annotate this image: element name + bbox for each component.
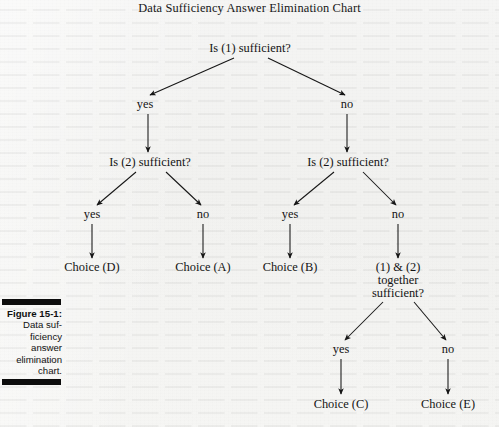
caption-figure-number: Figure 15-1:	[2, 308, 62, 319]
figure-page: Data Sufficiency Answer Elimination Char…	[0, 0, 499, 427]
edge-q2a-no	[166, 172, 201, 205]
edge-label-no-3: no	[392, 208, 404, 221]
flowchart-connectors	[0, 0, 499, 427]
node-question-combined-line-3: sufficient?	[343, 287, 453, 300]
caption-rule-bottom	[2, 379, 61, 385]
node-choice-d[interactable]: Choice (D)	[64, 261, 119, 274]
edge-q2b-yes	[294, 172, 334, 205]
node-question-1[interactable]: Is (1) sufficient?	[209, 42, 291, 55]
caption-line-2: ficiency	[2, 331, 62, 342]
edge-q1-yes	[150, 58, 234, 95]
edge-label-yes-4: yes	[333, 343, 350, 356]
edge-label-yes-2: yes	[84, 208, 101, 221]
node-question-2-right[interactable]: Is (2) sufficient?	[307, 156, 389, 169]
edge-label-yes-1: yes	[137, 98, 154, 111]
caption-line-5: chart.	[2, 365, 62, 376]
node-choice-c[interactable]: Choice (C)	[314, 398, 369, 411]
caption-text: Figure 15-1: Data suf- ficiency answer e…	[2, 305, 62, 377]
caption-line-3: answer	[2, 342, 62, 353]
edge-label-no-1: no	[341, 98, 353, 111]
node-question-combined[interactable]: (1) & (2) together sufficient?	[343, 261, 453, 301]
edge-q1-no	[268, 58, 345, 95]
edge-label-yes-3: yes	[282, 208, 299, 221]
node-question-2-left[interactable]: Is (2) sufficient?	[109, 156, 191, 169]
caption-line-1: Data suf-	[2, 319, 62, 330]
edge-q3-no	[414, 302, 446, 340]
node-choice-a[interactable]: Choice (A)	[175, 261, 230, 274]
node-choice-b[interactable]: Choice (B)	[263, 261, 318, 274]
figure-caption: Figure 15-1: Data suf- ficiency answer e…	[2, 299, 62, 385]
edge-q3-yes	[345, 302, 383, 340]
edge-label-no-4: no	[442, 343, 454, 356]
node-choice-e[interactable]: Choice (E)	[421, 398, 475, 411]
edge-q2b-no	[363, 172, 396, 205]
caption-line-4: elimination	[2, 354, 62, 365]
edge-q2a-yes	[97, 172, 136, 205]
edge-label-no-2: no	[197, 208, 209, 221]
